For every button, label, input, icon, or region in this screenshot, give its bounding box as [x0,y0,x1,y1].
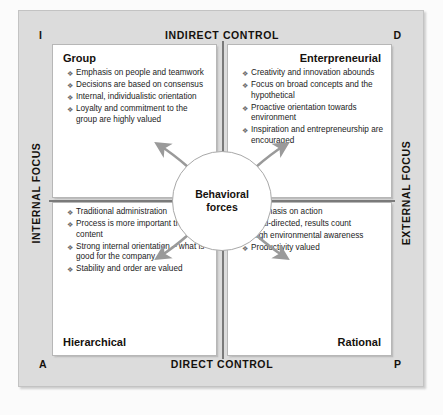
corner-letter-bottom-left: A [39,358,47,370]
center-circle: Behavioral forces [172,151,272,251]
center-label-line1: Behavioral [195,188,249,201]
list-item: Internal, individualistic orientation [67,92,208,103]
list-item: Creativity and innovation abounds [242,68,383,79]
list-item: Focus on broad concepts and the hypothet… [242,80,383,101]
quadrant-matrix: Group Emphasis on people and teamwork De… [52,44,392,356]
diagram-panel: INDIRECT CONTROL DIRECT CONTROL I D A P … [18,10,424,387]
quadrant-title-rational: Rational [228,336,391,348]
quadrant-title-enterpreneurial: Enterpreneurial [228,45,391,64]
axis-label-bottom: DIRECT CONTROL [19,358,425,370]
corner-letter-top-right: D [393,29,401,41]
list-item: Emphasis on people and teamwork [67,68,208,79]
center-hub: Behavioral forces [172,151,272,251]
list-item: Decisions are based on consensus [67,80,208,91]
figure-page: INDIRECT CONTROL DIRECT CONTROL I D A P … [0,0,443,415]
axis-label-top: INDIRECT CONTROL [19,29,425,41]
bullet-list-group: Emphasis on people and teamwork Decision… [53,68,216,125]
list-item: Stability and order are valued [67,264,208,275]
axis-label-right: EXTERNAL FOCUS [400,138,412,248]
corner-letter-top-left: I [39,29,42,41]
list-item: Loyalty and commitment to the group are … [67,104,208,125]
list-item: Proactive orientation towards environmen… [242,103,383,124]
quadrant-title-group: Group [53,45,216,64]
list-item: Inspiration and entrepreneurship are enc… [242,125,383,146]
corner-letter-bottom-right: P [394,358,401,370]
bullet-list-enterpreneurial: Creativity and innovation abounds Focus … [228,68,391,147]
quadrant-title-hierarchical: Hierarchical [53,336,216,348]
center-label-line2: forces [206,201,238,214]
axis-label-left: INTERNAL FOCUS [30,138,42,248]
